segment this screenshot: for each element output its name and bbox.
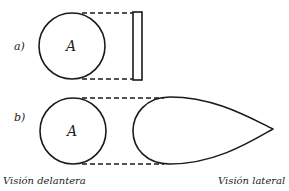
caption-side-view: Visión lateral [218, 175, 285, 186]
diagram-canvas: a) A b) A Visión delantera Visión latera… [0, 0, 289, 191]
side-view-teardrop [133, 97, 273, 164]
panel-a-label: a) [14, 40, 25, 53]
side-view-flat-plate [133, 12, 142, 80]
caption-front-view: Visión delantera [3, 175, 86, 186]
panel-b-label: b) [14, 111, 25, 124]
panel-b: b) A [14, 97, 273, 164]
area-label-b: A [65, 123, 77, 139]
area-label-a: A [64, 38, 76, 54]
panel-a: a) A [14, 12, 142, 80]
